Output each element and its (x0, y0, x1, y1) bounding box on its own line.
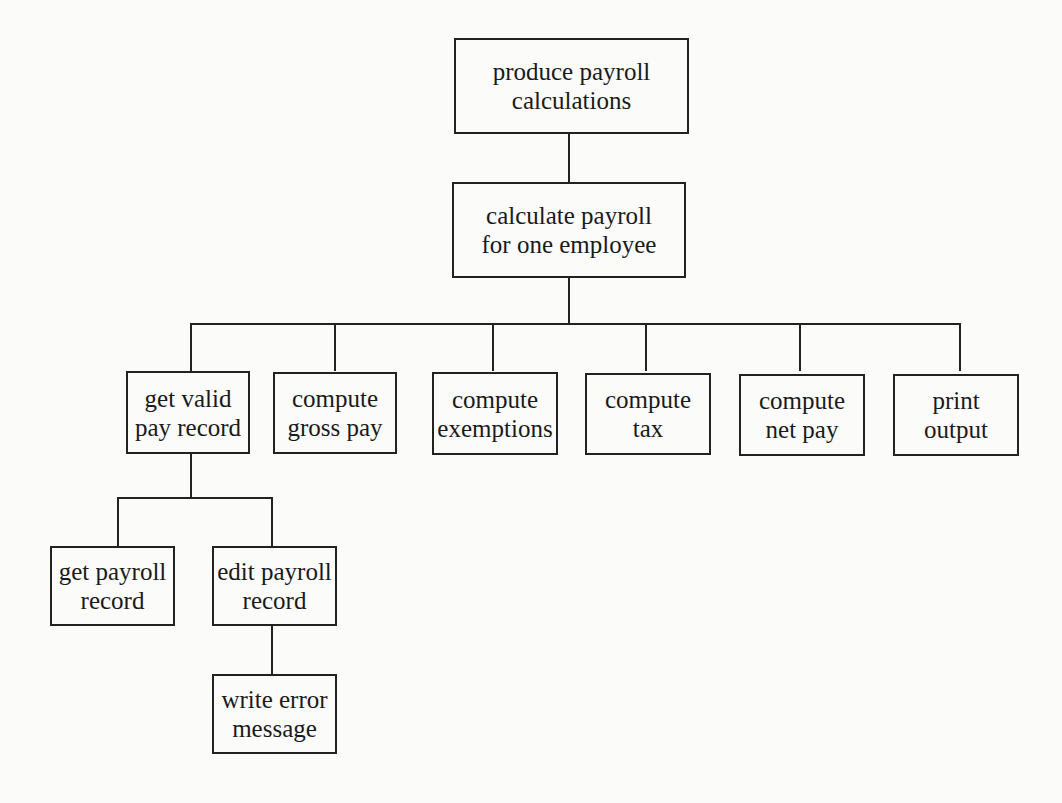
node-label-line2: record (243, 586, 307, 615)
drop-edit-payroll (271, 497, 273, 546)
node-get-valid-pay-record: get valid pay record (126, 371, 250, 454)
node-label-line1: calculate payroll (486, 201, 652, 230)
node-label-line1: compute (759, 386, 845, 415)
node-label-line2: tax (633, 414, 664, 443)
node-label-line2: message (232, 714, 317, 743)
connector-edit-write (271, 625, 273, 674)
node-label-line1: print (932, 386, 979, 415)
node-label-line1: get payroll (59, 557, 167, 586)
node-write-error-message: write error message (212, 674, 337, 754)
node-produce-payroll-calculations: produce payroll calculations (454, 38, 689, 134)
node-label-line2: output (924, 415, 988, 444)
drop-get-valid (190, 323, 192, 371)
node-label-line2: for one employee (482, 230, 657, 259)
drop-gross (334, 323, 336, 371)
node-calculate-payroll-one-employee: calculate payroll for one employee (452, 182, 686, 278)
node-label-line1: edit payroll (217, 557, 332, 586)
bus-level2 (190, 323, 961, 325)
node-label-line2: record (81, 586, 145, 615)
node-label-line1: get valid (145, 384, 232, 413)
drop-exemptions (492, 323, 494, 371)
node-label-line1: compute (292, 384, 378, 413)
drop-net (799, 323, 801, 371)
connector-get-valid-bus (190, 453, 192, 499)
node-compute-gross-pay: compute gross pay (273, 372, 397, 454)
node-label-line2: exemptions (437, 414, 552, 443)
node-get-payroll-record: get payroll record (50, 546, 175, 626)
node-label-line2: gross pay (287, 413, 382, 442)
node-compute-exemptions: compute exemptions (432, 372, 558, 455)
bus-level3 (117, 497, 273, 499)
node-label-line2: calculations (512, 86, 631, 115)
node-label-line1: compute (452, 385, 538, 414)
node-print-output: print output (893, 374, 1019, 456)
node-label-line1: compute (605, 385, 691, 414)
node-edit-payroll-record: edit payroll record (212, 546, 337, 626)
node-compute-net-pay: compute net pay (739, 374, 865, 456)
node-label-line1: write error (221, 685, 327, 714)
node-label-line2: net pay (766, 415, 839, 444)
node-label-line1: produce payroll (493, 57, 651, 86)
drop-tax (645, 323, 647, 371)
connector-root-calc (568, 133, 570, 182)
connector-calc-bus (568, 277, 570, 325)
drop-print (959, 323, 961, 371)
node-label-line2: pay record (135, 413, 241, 442)
payroll-structure-chart: produce payroll calculations calculate p… (0, 0, 1062, 803)
node-compute-tax: compute tax (585, 373, 711, 455)
drop-get-payroll (117, 497, 119, 546)
